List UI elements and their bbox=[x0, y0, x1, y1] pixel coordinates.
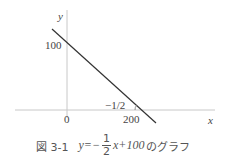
equation-fraction: 1 2 bbox=[102, 133, 111, 158]
slope-angle-arc bbox=[135, 105, 137, 110]
caption-suffix: のグラフ bbox=[146, 138, 190, 154]
x-tick-200: 200 bbox=[123, 114, 140, 125]
y-tick-100: 100 bbox=[45, 40, 62, 51]
figure-number: 図 3-1 bbox=[36, 138, 68, 154]
function-line bbox=[52, 29, 156, 123]
x-axis-label: x bbox=[208, 115, 213, 126]
slope-label: −1/2 bbox=[105, 100, 125, 111]
equation-lhs: y=− bbox=[78, 138, 100, 153]
figure-caption: 図 3-1 y=− 1 2 x+100 のグラフ bbox=[36, 133, 190, 158]
y-axis-label: y bbox=[58, 11, 63, 22]
equation-rhs: x+100 bbox=[113, 138, 144, 153]
fraction-denominator: 2 bbox=[103, 146, 110, 158]
origin-tick-0: 0 bbox=[64, 114, 70, 125]
